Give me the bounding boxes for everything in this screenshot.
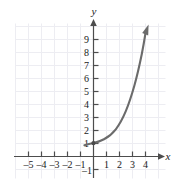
y-tick-label: 8: [84, 47, 89, 58]
coordinate-plane-chart: –5 –4 –3 –2 –1 1 2 3 4 1 2 3 4 5 6 7 8 9…: [0, 0, 177, 188]
y-axis-label: y: [91, 5, 97, 17]
x-tick-label: 2: [117, 159, 122, 170]
y-tick-label: 6: [84, 73, 89, 84]
y-tick-label: 7: [84, 60, 89, 71]
y-tick-label: 9: [84, 34, 89, 45]
x-tick-label: 1: [104, 159, 109, 170]
graph-figure: –5 –4 –3 –2 –1 1 2 3 4 1 2 3 4 5 6 7 8 9…: [0, 0, 177, 188]
x-tick-label: –3: [49, 159, 60, 170]
y-tick-label: 2: [84, 125, 89, 136]
y-tick-label: 3: [84, 112, 89, 123]
y-tick-label: 4: [84, 99, 89, 110]
y-tick-label: 5: [84, 86, 89, 97]
x-tick-label: 3: [130, 159, 135, 170]
x-tick-label: –5: [23, 159, 34, 170]
curve-marked-point: [91, 141, 95, 145]
x-tick-label: –2: [62, 159, 73, 170]
y-tick-label-negative-one: –1: [81, 165, 92, 176]
x-tick-label: –4: [36, 159, 47, 170]
x-axis-label: x: [165, 150, 171, 162]
x-tick-label: 4: [143, 159, 148, 170]
